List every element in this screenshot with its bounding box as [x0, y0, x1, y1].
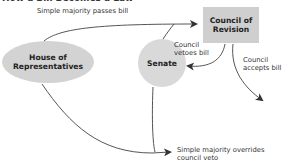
accepts-label-line2: accepts bill	[243, 64, 281, 72]
passes-label: Simple majority passes bill	[37, 7, 128, 15]
council-label-line1: Council of	[203, 16, 259, 25]
house-node: House of Representatives	[2, 53, 94, 71]
vetoes-label-line1: Council	[174, 41, 209, 49]
house-label-line2: Representatives	[2, 62, 94, 71]
overrides-label-line2: council veto	[177, 154, 265, 162]
senate-label: Senate	[138, 59, 186, 68]
vetoes-label: Council vetoes bill	[174, 41, 209, 57]
accepts-label: Council accepts bill	[243, 56, 281, 72]
overrides-label: Simple majority overrides council veto	[177, 146, 265, 162]
senate-override-line	[152, 87, 155, 152]
passes-arrow	[44, 24, 196, 41]
vetoes-label-line2: vetoes bill	[174, 49, 209, 57]
accepts-arrow	[233, 44, 262, 100]
overrides-arrow	[152, 152, 170, 153]
accepts-label-line1: Council	[243, 56, 281, 64]
senate-node: Senate	[138, 59, 186, 68]
overrides-label-line1: Simple majority overrides	[177, 146, 265, 154]
council-node: Council of Revision	[203, 16, 259, 34]
senate-to-council-line	[163, 24, 174, 39]
house-label-line1: House of	[2, 53, 94, 62]
council-label-line2: Revision	[203, 25, 259, 34]
house-override-curve	[42, 84, 152, 153]
